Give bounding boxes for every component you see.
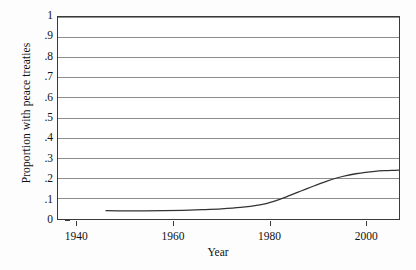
x-axis-title: Year — [0, 246, 416, 259]
y-tick-label: .7 — [17, 71, 53, 83]
chart-figure: Proportion with peace treaties 0.1.2.3.4… — [0, 0, 416, 270]
y-tick-label: .4 — [17, 132, 53, 144]
x-axis-tick-labels: 1940196019802000 — [0, 230, 416, 244]
data-series-line — [58, 17, 399, 219]
x-axis-title-text: Year — [207, 246, 228, 259]
y-tick-label: .5 — [17, 112, 53, 124]
x-tick-mark — [76, 221, 77, 226]
plot-area — [57, 16, 400, 220]
x-tick-label: 2000 — [336, 230, 396, 242]
x-tick-mark — [366, 221, 367, 226]
y-tick-label: 0 — [17, 214, 53, 226]
x-tick-label: 1960 — [143, 230, 203, 242]
x-tick-mark — [173, 221, 174, 226]
y-tick-label: 1 — [17, 10, 53, 22]
y-tick-label: .9 — [17, 30, 53, 42]
y-tick-label: .8 — [17, 51, 53, 63]
x-tick-mark — [270, 221, 271, 226]
x-tick-label: 1940 — [46, 230, 106, 242]
y-tick-label: .1 — [17, 194, 53, 206]
x-tick-label: 1980 — [240, 230, 300, 242]
y-tick-label: .3 — [17, 153, 53, 165]
y-tick-mark — [65, 220, 70, 221]
y-tick-label: .2 — [17, 173, 53, 185]
y-tick-label: .6 — [17, 92, 53, 104]
